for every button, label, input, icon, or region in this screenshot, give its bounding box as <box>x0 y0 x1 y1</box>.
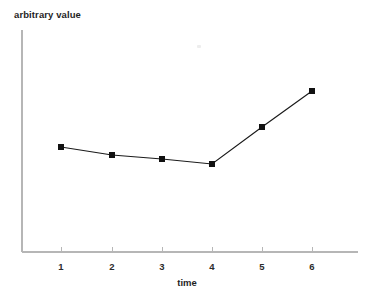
x-tick-label-2: 2 <box>109 261 114 272</box>
x-tick-label-5: 5 <box>259 261 265 272</box>
series-line-arbitrary-value <box>61 91 312 164</box>
x-tick-label-group: 123456 <box>58 261 314 272</box>
axis-group <box>22 30 358 252</box>
x-tick-label-4: 4 <box>209 261 215 272</box>
data-marker-group <box>58 88 315 167</box>
x-tick-label-1: 1 <box>58 261 64 272</box>
x-axis-label-group: time <box>177 277 197 288</box>
data-point-marker-5 <box>259 124 265 130</box>
tick-mark-group <box>61 247 312 252</box>
data-point-marker-4 <box>209 161 215 167</box>
line-chart-plot: 123456 time <box>0 0 372 297</box>
data-series-group <box>61 91 312 164</box>
data-point-marker-6 <box>309 88 315 94</box>
x-axis-title: time <box>177 277 197 288</box>
x-tick-label-6: 6 <box>309 261 314 272</box>
data-point-marker-2 <box>109 152 115 158</box>
chart-figure: arbitrary value 123456 time <box>0 0 372 297</box>
x-tick-label-3: 3 <box>159 261 164 272</box>
data-point-marker-1 <box>58 144 64 150</box>
data-point-marker-3 <box>159 156 165 162</box>
